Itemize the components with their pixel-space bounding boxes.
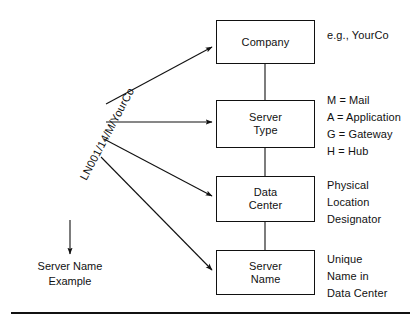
- arrow-code-to-server-name: [101, 157, 212, 270]
- node-company[interactable]: Company: [216, 20, 315, 64]
- footer-divider: [11, 312, 410, 314]
- arrow-code-to-data-center: [104, 139, 212, 196]
- note-company: e.g., YourCo: [327, 27, 389, 44]
- node-server-type-label: Server Type: [249, 111, 282, 137]
- diagram-canvas: LN001/14/M/YourCo Company Server Type Da…: [0, 0, 420, 321]
- note-data-center: Physical Location Designator: [327, 177, 381, 228]
- node-server-name[interactable]: Server Name: [216, 250, 315, 295]
- node-data-center-label: Data Center: [249, 186, 283, 212]
- node-server-type[interactable]: Server Type: [216, 100, 315, 148]
- note-server-name: Unique Name in Data Center: [327, 251, 387, 302]
- note-server-type: M = Mail A = Application G = Gateway H =…: [327, 92, 401, 160]
- node-server-name-label: Server Name: [249, 260, 282, 286]
- example-caption: Server Name Example: [10, 259, 130, 289]
- node-data-center[interactable]: Data Center: [216, 176, 315, 222]
- node-company-label: Company: [242, 36, 290, 49]
